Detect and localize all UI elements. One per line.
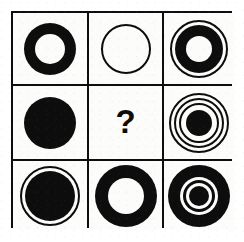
matrix-cell-large-thick-ring (89, 161, 162, 230)
matrix-grid: ? (11, 11, 232, 228)
matrix-cell-triple-outline-dot (164, 86, 234, 159)
missing-cell-question-mark: ? (115, 105, 135, 138)
figure-outline-plus-thick-ring (165, 15, 233, 83)
matrix-cell-thick-ring (13, 13, 87, 84)
figure-thin-outline-circle (92, 15, 160, 83)
matrix-cell-outline-plus-solid-disc (13, 161, 87, 230)
figure-triple-outline-dot (165, 89, 233, 157)
matrix-cell-bullseye (164, 161, 234, 230)
figure-outline-plus-solid-disc (16, 162, 84, 230)
figure-thick-ring (16, 15, 84, 83)
matrix-cell-solid-disc (13, 86, 87, 159)
matrix-cell-question-mark: ? (89, 86, 162, 159)
figure-solid-disc (16, 89, 84, 157)
figure-large-thick-ring (92, 162, 160, 230)
matrix-puzzle-image: ? (0, 0, 244, 242)
figure-bullseye (165, 162, 233, 230)
matrix-cell-thin-outline-circle (89, 13, 162, 84)
matrix-cell-outline-plus-thick-ring (164, 13, 234, 84)
